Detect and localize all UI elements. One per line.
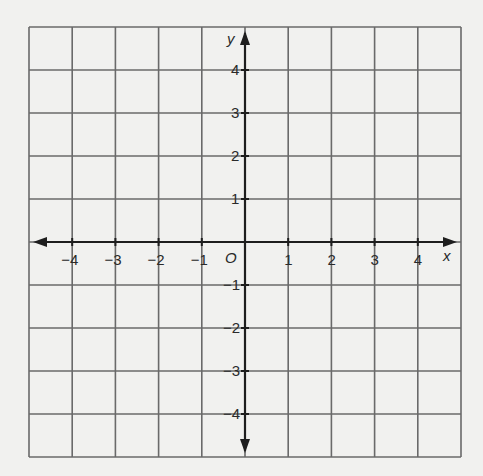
x-tick-label: −4	[61, 252, 78, 267]
y-axis-label: y	[227, 31, 235, 46]
x-tick-label: 2	[327, 252, 335, 267]
y-tick-label: 4	[231, 62, 239, 77]
y-tick-label: −3	[223, 363, 240, 378]
x-tick-label: −2	[148, 252, 165, 267]
y-tick-label: 2	[231, 148, 239, 163]
x-axis-left-arrow-icon	[33, 237, 47, 247]
x-tick-label: 1	[284, 252, 292, 267]
origin-label: O	[225, 250, 237, 265]
y-axis-up-arrow-icon	[240, 31, 250, 45]
y-tick-label: −1	[223, 277, 240, 292]
x-axis-label: x	[443, 248, 451, 263]
x-tick-label: 4	[414, 252, 422, 267]
y-axis-down-arrow-icon	[240, 439, 250, 453]
coordinate-grid	[0, 0, 483, 476]
y-tick-label: −4	[223, 406, 240, 421]
x-tick-label: −1	[191, 252, 208, 267]
y-tick-label: 3	[231, 105, 239, 120]
x-axis-right-arrow-icon	[443, 237, 457, 247]
x-tick-label: 3	[371, 252, 379, 267]
x-tick-label: −3	[104, 252, 121, 267]
y-tick-label: 1	[231, 191, 239, 206]
y-tick-label: −2	[223, 320, 240, 335]
